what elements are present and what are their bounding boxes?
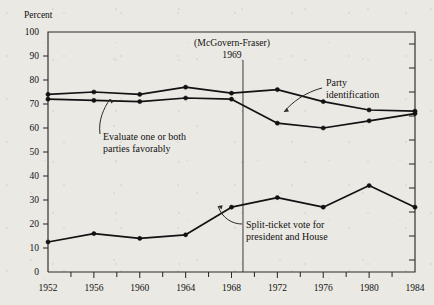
x-tick-label: 1960 [130, 283, 149, 293]
data-point [92, 98, 96, 102]
evaluate-parties-label-line2: parties favorably [103, 143, 170, 154]
evaluate-parties-arrow [110, 99, 114, 104]
y-axis-title: Percent [24, 10, 53, 20]
data-point [321, 205, 325, 209]
x-tick-label: 1956 [84, 283, 103, 293]
y-tick-label: 30 [30, 195, 40, 205]
event-annotation-line1: (McGovern-Fraser) [194, 37, 270, 49]
series-line-2 [48, 186, 415, 242]
data-point [367, 184, 371, 188]
data-point [229, 97, 233, 101]
y-tick-label: 0 [34, 267, 39, 277]
x-tick-label: 1968 [222, 283, 241, 293]
data-point [92, 90, 96, 94]
split-ticket-label-line1: Split-ticket vote for [246, 219, 325, 230]
y-tick-label: 60 [30, 123, 40, 133]
x-tick-label: 1972 [268, 283, 287, 293]
data-point [413, 112, 417, 116]
y-tick-label: 50 [30, 147, 40, 157]
annotation-leader-lines [100, 88, 322, 224]
data-point [184, 96, 188, 100]
data-point [229, 91, 233, 95]
data-point [413, 205, 417, 209]
x-axis-tick-labels: 195219561960196419681972197619801984 [39, 283, 425, 293]
data-point [138, 92, 142, 96]
y-tick-label: 100 [25, 27, 40, 37]
party-identification-label-line1: Party [326, 77, 347, 88]
data-point [184, 85, 188, 89]
party-identification-label-line2: identification [326, 89, 379, 100]
line-chart: Percent 0102030405060708090100 195219561… [0, 0, 434, 305]
x-tick-label: 1984 [406, 283, 425, 293]
party-identification-arrow [284, 108, 289, 112]
x-tick-label: 1952 [39, 283, 58, 293]
y-axis-ticks-right [409, 44, 415, 260]
data-point [184, 233, 188, 237]
x-axis-ticks [71, 272, 392, 278]
y-tick-label: 10 [30, 243, 40, 253]
y-tick-label: 80 [30, 75, 40, 85]
data-point [275, 88, 279, 92]
evaluate-parties-leader [100, 99, 110, 134]
y-tick-label: 70 [30, 99, 40, 109]
data-series-group [48, 87, 415, 242]
data-point [138, 236, 142, 240]
data-point [138, 100, 142, 104]
x-tick-label: 1964 [176, 283, 195, 293]
evaluate-parties-label-line1: Evaluate one or both [103, 131, 186, 142]
data-point [367, 108, 371, 112]
x-tick-label: 1976 [314, 283, 333, 293]
data-point [321, 126, 325, 130]
data-point [92, 232, 96, 236]
y-tick-label: 20 [30, 219, 40, 229]
data-point [46, 92, 50, 96]
chart-container: Percent 0102030405060708090100 195219561… [0, 0, 434, 305]
x-tick-label: 1980 [360, 283, 379, 293]
data-point [275, 121, 279, 125]
data-point [321, 100, 325, 104]
data-point [229, 205, 233, 209]
y-axis-ticks [43, 56, 48, 248]
y-tick-label: 40 [30, 171, 40, 181]
data-point [367, 119, 371, 123]
y-tick-label: 90 [30, 51, 40, 61]
data-point [275, 196, 279, 200]
y-axis-tick-labels: 0102030405060708090100 [25, 27, 40, 277]
data-point [46, 240, 50, 244]
split-ticket-label-line2: president and House [246, 231, 328, 242]
data-point [46, 97, 50, 101]
event-annotation-line2: 1969 [222, 49, 242, 60]
